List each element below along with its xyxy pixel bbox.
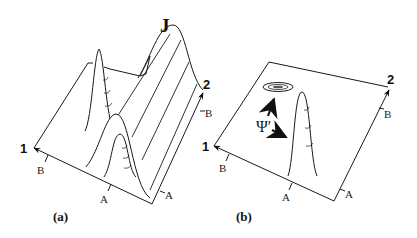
figure-canvas: J 1 2 B A A B (a) Ψ′ 1 2 B A A B (b) xyxy=(0,0,417,238)
axis-2-label-b: 2 xyxy=(387,72,394,87)
tick-label-b-left-a: B xyxy=(37,164,44,176)
tick-label-a-front-a: A xyxy=(100,193,108,205)
psi-arrow-up xyxy=(268,99,274,116)
psi-prime-label: Ψ′ xyxy=(256,118,271,135)
tick-label-a-front-b: A xyxy=(282,191,290,203)
contour-ellipse xyxy=(263,83,293,92)
axis-1-label-b: 1 xyxy=(202,139,209,154)
tick-label-b-right-b: B xyxy=(384,108,391,120)
axis-1-label-a: 1 xyxy=(20,141,27,156)
ridge-back-profile xyxy=(138,25,203,90)
tick-label-b-left-b: B xyxy=(219,162,226,174)
caption-a: (a) xyxy=(53,209,68,224)
axis-2-arrow-b xyxy=(334,90,389,201)
panel-b xyxy=(214,62,389,201)
peak-label-J: J xyxy=(160,15,170,36)
plane-back-left-edge xyxy=(34,63,88,148)
tick-label-b-right-a: B xyxy=(205,107,212,119)
plane-back-edge xyxy=(110,69,140,76)
tick-label-a-right-a: A xyxy=(165,189,173,201)
panel-a xyxy=(34,25,205,204)
tick-label-a-right-b: A xyxy=(345,188,353,200)
axis-2-arrow xyxy=(152,93,203,204)
psi-peak xyxy=(288,92,317,176)
axis-2-label-a: 2 xyxy=(203,77,210,92)
caption-b: (b) xyxy=(236,209,252,224)
psi-arrow-down xyxy=(272,130,286,137)
